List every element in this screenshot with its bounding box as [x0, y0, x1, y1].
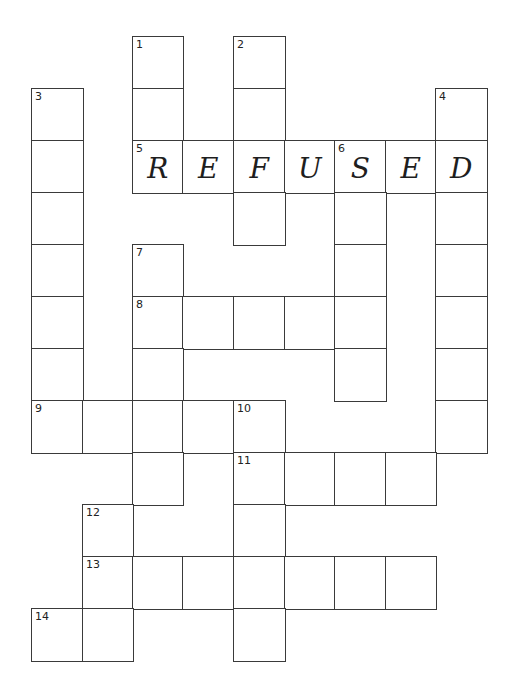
crossword-cell[interactable] [385, 556, 437, 610]
cell-letter: F [234, 151, 285, 187]
clue-number: 12 [86, 506, 100, 519]
cell-letter: U [285, 151, 335, 187]
clue-number: 2 [237, 38, 244, 51]
clue-number: 8 [136, 298, 143, 311]
clue-number: 4 [439, 90, 446, 103]
crossword-cell[interactable] [435, 348, 488, 402]
crossword-cell[interactable] [435, 400, 488, 454]
crossword-cell[interactable]: 7 [132, 244, 184, 298]
crossword-cell[interactable]: D [435, 140, 488, 194]
crossword-cell[interactable] [233, 88, 286, 142]
crossword-cell[interactable]: 12 [82, 504, 134, 558]
crossword-cell[interactable] [334, 452, 387, 506]
cell-letter: E [386, 151, 436, 187]
crossword-cell[interactable]: 4 [435, 88, 488, 142]
crossword-cell[interactable] [284, 296, 336, 350]
crossword-cell[interactable] [435, 296, 488, 350]
crossword-cell[interactable] [132, 348, 184, 402]
cell-letter: E [183, 151, 234, 187]
crossword-cell[interactable] [31, 348, 84, 402]
crossword-cell[interactable] [31, 244, 84, 298]
clue-number: 14 [35, 610, 49, 623]
clue-number: 7 [136, 246, 143, 259]
crossword-cell[interactable] [182, 400, 235, 454]
crossword-cell[interactable] [284, 452, 336, 506]
crossword-cell[interactable]: 8 [132, 296, 184, 350]
crossword-cell[interactable]: U [284, 140, 336, 194]
cell-letter: R [133, 151, 183, 187]
clue-number: 11 [237, 454, 251, 467]
crossword-cell[interactable] [334, 348, 387, 402]
crossword-cell[interactable] [334, 296, 387, 350]
crossword-cell[interactable] [334, 192, 387, 246]
crossword-cell[interactable]: 13 [82, 556, 134, 610]
crossword-cell[interactable]: 3 [31, 88, 84, 142]
crossword-cell[interactable] [233, 556, 286, 610]
crossword-cell[interactable] [82, 608, 134, 662]
crossword-grid: 12345REFU6SED7891011121314 [0, 0, 507, 699]
crossword-cell[interactable]: 14 [31, 608, 84, 662]
crossword-cell[interactable] [31, 296, 84, 350]
crossword-cell[interactable]: 9 [31, 400, 84, 454]
crossword-cell[interactable]: 11 [233, 452, 286, 506]
crossword-cell[interactable] [233, 192, 286, 246]
crossword-cell[interactable] [385, 452, 437, 506]
crossword-cell[interactable] [233, 504, 286, 558]
crossword-cell[interactable] [435, 244, 488, 298]
crossword-cell[interactable]: 10 [233, 400, 286, 454]
crossword-cell[interactable] [182, 556, 235, 610]
clue-number: 9 [35, 402, 42, 415]
crossword-cell[interactable] [132, 556, 184, 610]
crossword-cell[interactable] [334, 244, 387, 298]
clue-number: 3 [35, 90, 42, 103]
crossword-cell[interactable] [31, 192, 84, 246]
crossword-cell[interactable] [82, 400, 134, 454]
cell-letter: D [436, 151, 487, 187]
crossword-cell[interactable]: E [182, 140, 235, 194]
crossword-cell[interactable] [233, 608, 286, 662]
cell-letter: S [335, 151, 386, 187]
crossword-cell[interactable] [284, 556, 336, 610]
clue-number: 10 [237, 402, 251, 415]
crossword-cell[interactable]: 6S [334, 140, 387, 194]
crossword-cell[interactable] [334, 556, 387, 610]
crossword-cell[interactable] [435, 192, 488, 246]
crossword-cell[interactable]: F [233, 140, 286, 194]
clue-number: 13 [86, 558, 100, 571]
crossword-cell[interactable]: 2 [233, 36, 286, 90]
crossword-cell[interactable] [132, 88, 184, 142]
crossword-cell[interactable] [182, 296, 235, 350]
crossword-cell[interactable] [132, 400, 184, 454]
clue-number: 1 [136, 38, 143, 51]
crossword-cell[interactable] [233, 296, 286, 350]
crossword-cell[interactable]: 1 [132, 36, 184, 90]
crossword-cell[interactable]: E [385, 140, 437, 194]
crossword-cell[interactable] [31, 140, 84, 194]
crossword-cell[interactable] [132, 452, 184, 506]
crossword-cell[interactable]: 5R [132, 140, 184, 194]
